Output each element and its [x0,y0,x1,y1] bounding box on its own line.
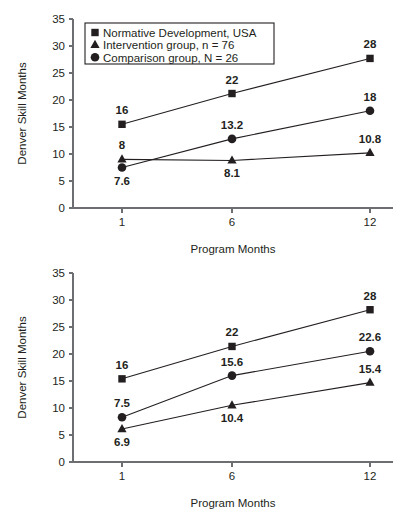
data-label-circle-12: 18 [364,91,377,103]
y-tick-label: 10 [52,402,65,414]
data-label-circle-1: 7.6 [114,175,130,187]
data-point-circle-12 [366,347,375,356]
chart-panel-top: 05101520253035Denver Skill Months1612Pro… [0,0,412,261]
data-point-circle-1 [118,413,127,422]
data-label-circle-1: 7.5 [114,397,131,409]
legend-label-triangle: Intervention group, n = 76 [103,39,234,51]
x-tick-label: 12 [364,216,377,228]
series-line-circle [122,351,370,417]
y-tick-label: 20 [52,94,65,106]
x-axis-ticks: 1612 [119,462,377,482]
data-point-triangle-12 [365,378,374,386]
x-tick-label: 1 [119,470,125,482]
data-point-circle-12 [366,107,375,116]
data-point-triangle-6 [227,155,236,163]
y-tick-label: 25 [52,321,65,333]
y-tick-label: 0 [59,202,65,214]
dual-line-chart-figure: 05101520253035Denver Skill Months1612Pro… [0,0,412,522]
series-line-square [122,58,370,124]
data-label-triangle-12: 10.8 [359,133,382,145]
legend: Normative Development, USAIntervention g… [85,23,274,64]
data-point-square-6 [228,343,235,350]
series-triangle: 88.110.8 [117,133,381,180]
series-line-circle [122,111,370,168]
chart-panel-bottom: 05101520253035Denver Skill Months1612Pro… [0,261,412,522]
data-label-square-12: 28 [364,290,377,302]
data-label-triangle-1: 8 [119,139,126,151]
y-tick-label: 20 [52,348,65,360]
data-label-circle-6: 13.2 [221,119,243,131]
data-point-circle-6 [228,135,237,144]
y-tick-label: 5 [59,429,65,441]
data-label-triangle-12: 15.4 [359,363,382,375]
y-tick-label: 25 [52,67,65,79]
x-tick-label: 6 [229,216,235,228]
y-tick-label: 15 [52,121,65,133]
y-tick-label: 30 [52,294,65,306]
data-label-square-1: 16 [116,359,129,371]
y-axis-title: Denver Skill Months [16,62,28,165]
x-axis-title: Program Months [190,497,275,509]
data-label-triangle-6: 10.4 [221,412,244,424]
x-axis-title: Program Months [190,243,275,255]
data-label-circle-12: 22.6 [359,331,381,343]
y-axis-ticks: 05101520253035 [52,13,73,214]
chart-canvas-bottom: 05101520253035Denver Skill Months1612Pro… [0,261,412,522]
series-line-triangle [122,153,370,161]
legend-marker-circle [91,53,100,62]
data-label-triangle-1: 6.9 [114,436,130,448]
data-label-square-6: 22 [226,74,239,86]
y-tick-label: 10 [52,148,65,160]
y-tick-label: 35 [52,13,65,25]
y-axis-title: Denver Skill Months [16,316,28,419]
series-square: 162228 [116,290,377,383]
data-point-triangle-1 [117,154,126,162]
data-label-circle-6: 15.6 [221,356,243,368]
legend-label-circle: Comparison group, N = 26 [103,52,238,64]
data-point-triangle-12 [365,148,374,156]
x-axis-ticks: 1612 [119,208,377,228]
data-point-square-12 [366,306,373,313]
data-label-square-6: 22 [226,326,239,338]
series-line-triangle [122,383,370,429]
data-point-square-1 [118,375,125,382]
series-circle: 7.613.218 [114,91,377,187]
y-tick-label: 15 [52,375,65,387]
data-label-square-12: 28 [364,38,377,50]
x-tick-label: 12 [364,470,377,482]
y-axis-ticks: 05101520253035 [52,267,73,468]
data-point-square-6 [228,90,235,97]
data-point-square-1 [118,121,125,128]
data-label-triangle-6: 8.1 [224,167,241,179]
y-tick-label: 35 [52,267,65,279]
data-point-square-12 [366,55,373,62]
y-tick-label: 30 [52,40,65,52]
series-line-square [122,310,370,379]
series-circle: 7.515.622.6 [114,331,381,421]
data-label-square-1: 16 [116,104,129,116]
chart-canvas-top: 05101520253035Denver Skill Months1612Pro… [0,0,412,261]
y-tick-label: 5 [59,175,65,187]
x-tick-label: 1 [119,216,125,228]
data-point-circle-1 [118,163,127,172]
x-tick-label: 6 [229,470,235,482]
y-tick-label: 0 [59,456,65,468]
legend-label-square: Normative Development, USA [103,27,257,39]
legend-marker-square [91,29,98,36]
data-point-circle-6 [228,371,237,380]
